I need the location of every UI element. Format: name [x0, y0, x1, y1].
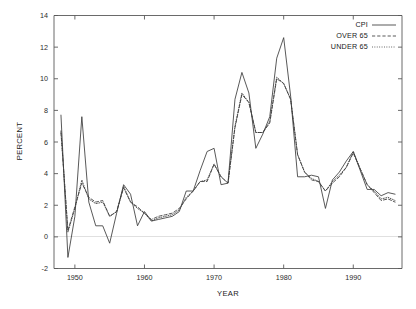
- y-tick-label: -2: [42, 264, 48, 273]
- y-tick-label: 2: [44, 201, 48, 210]
- legend-label-under-65: UNDER 65: [331, 42, 368, 51]
- legend-label-over-65: OVER 65: [336, 31, 368, 40]
- y-tick-label: 12: [40, 43, 48, 52]
- y-tick-label: 6: [44, 138, 48, 147]
- y-axis-title: PERCENT: [15, 122, 24, 160]
- legend-label-cpi: CPI: [355, 20, 368, 29]
- x-tick-label: 1970: [206, 273, 222, 282]
- y-tick-label: 4: [44, 169, 48, 178]
- line-chart: 14121086420-2 19501960197019801990 PERCE…: [0, 0, 416, 309]
- y-tick-label: 14: [40, 11, 48, 20]
- y-tick-label: 0: [44, 232, 48, 241]
- x-tick-label: 1990: [345, 273, 361, 282]
- x-tick-label: 1980: [276, 273, 292, 282]
- x-axis-title: YEAR: [217, 289, 239, 298]
- chart-figure: 14121086420-2 19501960197019801990 PERCE…: [0, 0, 416, 309]
- y-tick-label: 8: [44, 106, 48, 115]
- y-tick-label: 10: [40, 74, 48, 83]
- x-tick-label: 1950: [67, 273, 83, 282]
- x-tick-label: 1960: [136, 273, 152, 282]
